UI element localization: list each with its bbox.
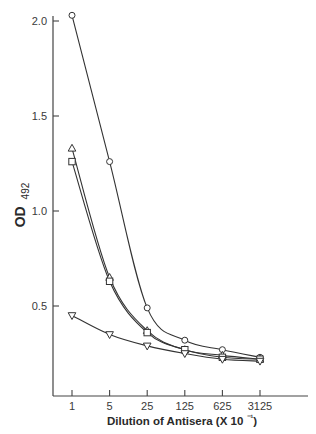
x-axis-title: Dilution of Antisera (X 10 ⁻¹) (107, 413, 257, 427)
data-point-triangle-down (68, 313, 76, 320)
data-point-triangle-up (68, 144, 76, 151)
y-tick-label: 1.0 (32, 205, 47, 217)
x-axis-title-close: ) (253, 415, 257, 427)
data-point-circle (182, 337, 188, 343)
x-axis-title-main: Dilution of Antisera (X 10 (107, 415, 243, 427)
y-axis-title-subscript: 492 (20, 182, 31, 199)
data-point-circle (69, 12, 75, 18)
y-axis-title-main: OD (12, 206, 28, 227)
y-axis-title: OD 492 (12, 182, 31, 227)
markers (68, 12, 264, 365)
x-tick-label: 3125 (248, 400, 272, 412)
data-point-circle (144, 305, 150, 311)
series-line-circle (72, 15, 260, 357)
y-ticks: 0.51.01.52.0 (32, 15, 59, 312)
curves (72, 15, 260, 361)
x-tick-label: 125 (176, 400, 194, 412)
series-line-square (72, 162, 260, 360)
x-tick-label: 25 (141, 400, 153, 412)
chart: 0.51.01.52.0 15251256253125 Dilution of … (0, 0, 316, 434)
data-point-square (144, 329, 150, 335)
x-tick-label: 5 (107, 400, 113, 412)
data-point-square (106, 278, 112, 284)
y-tick-label: 0.5 (32, 300, 47, 312)
svg-text:OD 492: OD 492 (12, 182, 31, 227)
data-point-circle (107, 159, 113, 165)
axes (53, 16, 308, 396)
y-tick-label: 2.0 (32, 15, 47, 27)
data-point-square (69, 158, 75, 164)
x-tick-label: 1 (69, 400, 75, 412)
series-line-inverted-triangle (72, 316, 260, 362)
y-tick-label: 1.5 (32, 110, 47, 122)
series-line-triangle (72, 148, 260, 359)
x-ticks: 15251256253125 (69, 390, 272, 412)
x-tick-label: 625 (213, 400, 231, 412)
